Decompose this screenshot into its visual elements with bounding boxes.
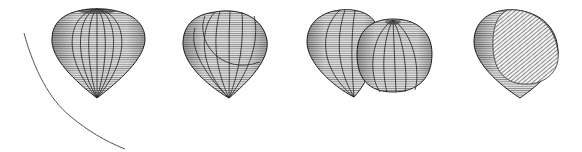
teardrop-whole [52,8,145,98]
teardrop-split-lobes [307,10,432,97]
wireframe-figure [0,0,582,152]
teardrop-rotated-section [183,11,267,98]
teardrop-cut-face [474,10,558,98]
